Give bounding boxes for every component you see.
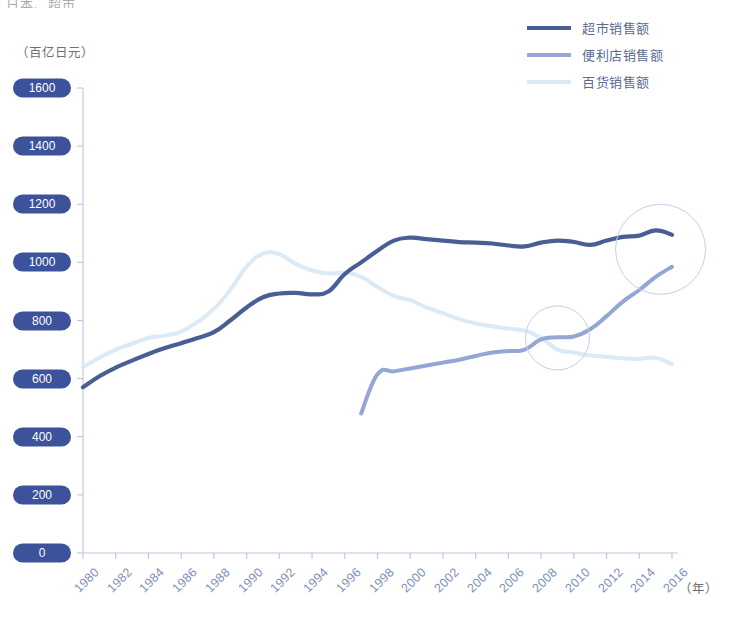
series-line-convenience <box>361 267 672 414</box>
y-tick-label-1200: 1200 <box>13 195 71 214</box>
y-tick-label-200: 200 <box>13 485 71 504</box>
y-tick-label-0: 0 <box>13 544 71 563</box>
annotation-circle-crossing-supermarket-convenience <box>616 204 706 294</box>
y-tick-label-400: 400 <box>13 427 71 446</box>
series-line-supermarket <box>83 230 672 387</box>
y-tick-label-1600: 1600 <box>13 79 71 98</box>
chart-page: 日本、超市 （百亿日元） （年） 超市销售额 便利店销售额 百货销售额 0200… <box>0 0 741 623</box>
series-line-department <box>83 252 672 367</box>
y-tick-label-800: 800 <box>13 311 71 330</box>
y-tick-label-600: 600 <box>13 369 71 388</box>
y-tick-label-1000: 1000 <box>13 253 71 272</box>
y-tick-label-1400: 1400 <box>13 137 71 156</box>
chart-plot-area <box>0 0 741 623</box>
